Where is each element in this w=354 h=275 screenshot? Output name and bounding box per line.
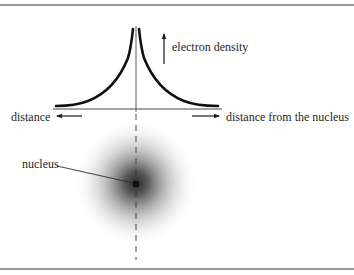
nucleus-dot — [133, 181, 140, 188]
bottom-frame-rule — [0, 268, 354, 270]
electron-density-label: electron density — [172, 40, 248, 54]
distance-from-nucleus-label: distance from the nucleus — [226, 110, 349, 124]
density-curve-left — [56, 29, 133, 106]
distance-left-label: distance — [11, 110, 50, 124]
nucleus-label: nucleus — [22, 157, 59, 171]
